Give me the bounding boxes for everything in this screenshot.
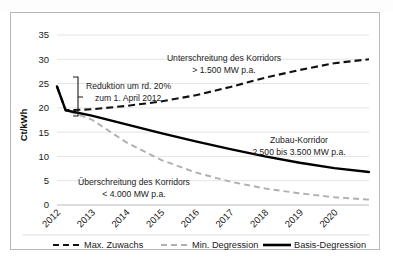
x-tick-label: 2013 [74, 207, 97, 230]
x-tick-label: 2016 [178, 207, 201, 230]
annotation-ueberschreitung-line2: < 4.000 MW p.a. [102, 189, 165, 199]
legend-label-2: Min. Degression [192, 240, 258, 250]
legend-label-3: Basis-Degression [294, 240, 366, 250]
annotation-unterschreitung-line1: Unterschreitung des Korridors [167, 53, 281, 63]
y-tick-label: 30 [38, 54, 49, 65]
y-tick-label: 25 [38, 78, 49, 89]
y-axis-title: Ct/kWh [18, 108, 29, 141]
annotation-zubau-korridor-line2: 2.500 bis 3.500 MW p.a. [252, 147, 345, 157]
chart-legend: Max. ZuwachsMin. DegressionBasis-Degress… [53, 240, 366, 250]
y-axis-ticks: 05101520253035 [38, 29, 49, 210]
x-tick-label: 2017 [213, 207, 236, 230]
chart-figure-frame: 05101520253035 Ct/kWh 201220132014201520… [10, 12, 380, 250]
y-tick-label: 0 [44, 199, 49, 210]
scan-artifact-strip [0, 0, 393, 12]
y-tick-label: 15 [38, 127, 49, 138]
y-tick-label: 5 [44, 175, 49, 186]
y-tick-label: 35 [38, 29, 49, 40]
x-tick-label: 2014 [109, 207, 132, 230]
y-tick-label: 10 [38, 151, 49, 162]
x-tick-label: 2015 [144, 207, 167, 230]
x-axis-ticks: 201220132014201520162017201820192020 [40, 207, 340, 230]
annotation-reduktion-line2: zum 1. April 2012 [95, 93, 162, 103]
annotation-zubau-korridor-line1: Zubau-Korridor [270, 135, 328, 145]
legend-label-1: Max. Zuwachs [84, 240, 144, 250]
x-tick-label: 2020 [317, 207, 340, 230]
x-tick-label: 2018 [248, 207, 271, 230]
x-tick-label: 2019 [282, 207, 305, 230]
eeg-degression-line-chart: 05101520253035 Ct/kWh 201220132014201520… [11, 13, 381, 251]
annotation-reduktion-line1: Reduktion um rd. 20% [86, 81, 171, 91]
chart-plot-wrapper: 05101520253035 Ct/kWh 201220132014201520… [11, 13, 381, 251]
annotation-unterschreitung-line2: > 1.500 MW p.a. [192, 65, 255, 75]
y-tick-label: 20 [38, 102, 49, 113]
annotation-ueberschreitung-line1: Überschreitung des Korridors [78, 177, 190, 187]
